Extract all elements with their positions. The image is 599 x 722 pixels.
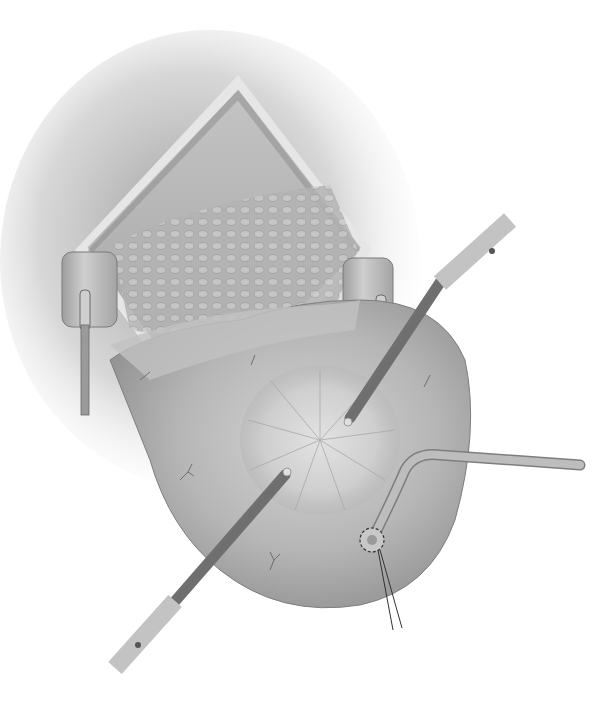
surgical-illustration xyxy=(0,0,599,722)
illustration-canvas xyxy=(0,0,599,722)
